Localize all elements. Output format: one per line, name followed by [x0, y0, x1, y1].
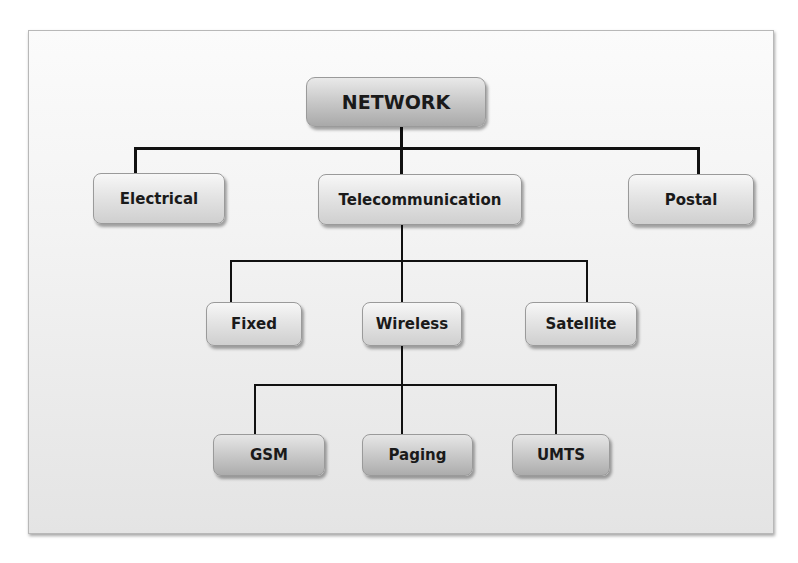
connector-telecom-down — [401, 225, 403, 262]
connector-telecommunication — [400, 147, 403, 174]
connector-level3-bus — [254, 384, 557, 386]
node-label: NETWORK — [342, 91, 450, 113]
connector-level1-bus — [134, 147, 700, 150]
node-telecommunication: Telecommunication — [318, 174, 522, 225]
node-paging: Paging — [362, 434, 473, 476]
connector-paging — [401, 384, 403, 434]
node-wireless: Wireless — [362, 302, 462, 346]
node-label: Telecommunication — [339, 191, 502, 209]
node-electrical: Electrical — [93, 173, 225, 224]
connector-umts — [555, 384, 557, 434]
node-label: Paging — [388, 446, 446, 464]
connector-wireless-down — [401, 346, 403, 385]
node-network: NETWORK — [306, 77, 486, 127]
node-umts: UMTS — [512, 434, 610, 476]
node-label: GSM — [250, 446, 288, 464]
node-label: Satellite — [545, 315, 616, 333]
connector-root-down — [400, 127, 403, 149]
node-label: Wireless — [376, 315, 448, 333]
connector-postal — [697, 147, 700, 174]
connector-satellite — [586, 260, 588, 302]
node-label: Electrical — [120, 190, 198, 208]
connector-gsm — [254, 384, 256, 434]
connector-fixed — [230, 260, 232, 302]
connector-electrical — [134, 147, 137, 174]
node-label: UMTS — [537, 446, 585, 464]
node-label: Postal — [665, 191, 718, 209]
node-label: Fixed — [231, 315, 277, 333]
connector-wireless — [401, 260, 403, 302]
node-postal: Postal — [628, 174, 754, 225]
node-gsm: GSM — [213, 434, 325, 476]
node-satellite: Satellite — [525, 302, 637, 346]
connector-level2-bus — [230, 260, 588, 262]
node-fixed: Fixed — [206, 302, 302, 346]
